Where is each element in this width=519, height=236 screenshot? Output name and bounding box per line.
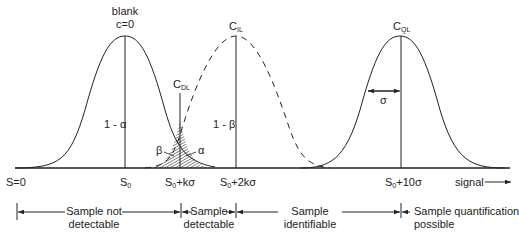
range-not-detectable-label: Sample not — [66, 205, 122, 217]
detection-limits-diagram: blank c=0 1 - α CDL CIL 1 - β CQL σ β α … — [0, 0, 519, 236]
quantification-distribution-curve — [300, 36, 505, 168]
blank-concentration-label: c=0 — [116, 18, 134, 30]
one-minus-beta-label: 1 - β — [213, 118, 235, 130]
cql-label: CQL — [393, 20, 410, 34]
range-identifiable-label-2: identifiable — [284, 218, 337, 230]
tick-s0-10-sigma: S0+10σ — [385, 176, 422, 189]
tick-s0: S0 — [120, 176, 131, 189]
sigma-label: σ — [380, 94, 387, 106]
cdl-label: CDL — [173, 78, 190, 91]
signal-axis-label: signal — [455, 176, 484, 188]
range-detectable-label-2: detectable — [184, 218, 235, 230]
beta-label: β — [156, 144, 162, 156]
range-quantification-label-2: possible — [414, 218, 454, 230]
range-quantification-label: Sample quantification — [414, 205, 519, 217]
alpha-label: α — [198, 144, 205, 156]
tick-s-zero: S=0 — [6, 176, 26, 188]
range-identifiable-label: Sample — [291, 205, 328, 217]
tick-s0-2k-sigma: S0+2kσ — [220, 176, 256, 189]
cil-label: CIL — [229, 20, 243, 33]
blank-label: blank — [112, 5, 139, 17]
range-not-detectable-label-2: detectable — [69, 218, 120, 230]
range-detectable-label: Sample — [190, 205, 227, 217]
tick-s0-k-sigma: S0+kσ — [165, 176, 195, 189]
one-minus-alpha-label: 1 - α — [104, 118, 127, 130]
